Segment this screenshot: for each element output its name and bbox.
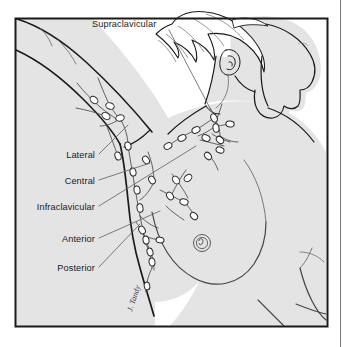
label-anterior: Anterior xyxy=(62,234,95,244)
lymph-node-illustration: Supraclavicular Lateral Central Infracla… xyxy=(0,0,347,347)
label-supraclavicular: Supraclavicular xyxy=(92,19,156,29)
illustration-canvas: Supraclavicular Lateral Central Infracla… xyxy=(0,0,347,347)
label-infraclavicular: Infraclavicular xyxy=(37,202,95,212)
label-lateral: Lateral xyxy=(66,150,95,160)
label-central: Central xyxy=(65,176,95,186)
label-posterior: Posterior xyxy=(57,263,95,273)
